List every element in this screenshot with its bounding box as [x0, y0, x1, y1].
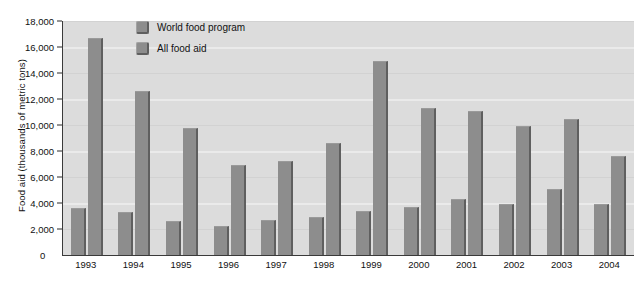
y-axis-tick-label: 2,000 [8, 224, 54, 235]
bar [356, 211, 371, 255]
y-axis-tick-label: 10,000 [8, 120, 54, 131]
chart-legend: World food program All food aid [136, 20, 245, 62]
bar [451, 199, 466, 255]
bar [326, 143, 341, 255]
bar [547, 189, 562, 255]
legend-swatch-icon [136, 21, 149, 34]
y-axis-tick-mark [57, 125, 62, 126]
bar-chart-figure: Food aid (thousands of metric tons) 18,0… [0, 0, 644, 287]
x-axis-tick-label: 1999 [348, 259, 394, 270]
legend-item-world-food-program: World food program [136, 20, 245, 34]
bar [135, 91, 150, 255]
x-axis-tick-label: 2004 [586, 259, 632, 270]
y-axis-tick-mark [57, 21, 62, 22]
x-axis-tick-label: 2003 [539, 259, 585, 270]
y-axis-tick-mark [57, 203, 62, 204]
y-axis-tick-label: 12,000 [8, 94, 54, 105]
bar [564, 119, 579, 256]
x-axis-tick-label: 1994 [110, 259, 156, 270]
y-axis-tick-mark [57, 47, 62, 48]
bar [166, 221, 181, 255]
bar-group [71, 21, 103, 255]
x-axis-tick-labels: 1993199419951996199719981999200020012002… [62, 259, 633, 279]
x-axis-tick-label: 1995 [158, 259, 204, 270]
bar [404, 207, 419, 255]
bar [611, 156, 626, 255]
bar [214, 226, 229, 255]
y-axis-tick-mark [57, 177, 62, 178]
y-axis-tick-mark [57, 99, 62, 100]
x-axis-tick-label: 1993 [63, 259, 109, 270]
y-axis-tick-labels: 18,00016,00014,00012,00010,0008,0006,000… [8, 0, 54, 287]
bar [373, 61, 388, 255]
legend-swatch-icon [136, 42, 149, 55]
bar-group [451, 21, 483, 255]
bar [309, 217, 324, 255]
y-axis-tick-label: 8,000 [8, 146, 54, 157]
y-axis-zero-label: 0 [40, 250, 45, 261]
x-axis-tick-label: 2001 [443, 259, 489, 270]
bar [594, 204, 609, 255]
bar-group [261, 21, 293, 255]
bar [71, 208, 86, 255]
y-axis-tick-mark [57, 151, 62, 152]
x-axis-tick-label: 1997 [253, 259, 299, 270]
legend-label: World food program [157, 22, 245, 33]
x-axis-tick-label: 2000 [396, 259, 442, 270]
y-axis-tick-mark [57, 229, 62, 230]
bar [261, 220, 276, 255]
y-axis-tick-label: 14,000 [8, 68, 54, 79]
y-axis-tick-mark [57, 73, 62, 74]
x-axis-tick-label: 1996 [206, 259, 252, 270]
bar-group [499, 21, 531, 255]
y-axis-tick-label: 6,000 [8, 172, 54, 183]
bar-group [356, 21, 388, 255]
bar [278, 161, 293, 255]
bar-group [547, 21, 579, 255]
bar [499, 204, 514, 255]
bar-group [309, 21, 341, 255]
bar [118, 212, 133, 255]
y-axis-tick-label: 16,000 [8, 42, 54, 53]
legend-label: All food aid [157, 43, 206, 54]
x-axis-tick-label: 2002 [491, 259, 537, 270]
y-axis-tick-label: 18,000 [8, 16, 54, 27]
bar [468, 111, 483, 255]
legend-item-all-food-aid: All food aid [136, 41, 245, 55]
bar [231, 165, 246, 255]
y-axis-tick-label: 4,000 [8, 198, 54, 209]
bar [88, 38, 103, 255]
x-axis-tick-label: 1998 [301, 259, 347, 270]
bar-group [594, 21, 626, 255]
bar-group [404, 21, 436, 255]
bar [421, 108, 436, 255]
bar [183, 128, 198, 255]
bar [516, 126, 531, 255]
